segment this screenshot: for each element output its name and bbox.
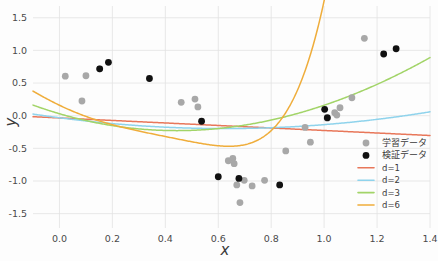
x-tick-label: 1.2 [370, 233, 385, 244]
y-tick-label: -1.0 [8, 175, 27, 186]
chart-canvas: 0.00.20.40.60.81.01.21.41.51.00.50.0-0.5… [0, 0, 438, 261]
data-point [105, 59, 112, 66]
legend-label: d=3 [382, 188, 400, 198]
data-point [192, 96, 199, 103]
data-point [276, 182, 283, 189]
legend-marker [363, 140, 370, 147]
data-point [361, 35, 368, 42]
y-tick-label: 1.5 [12, 12, 27, 23]
legend-label: d=6 [382, 200, 400, 210]
legend-label: d=1 [382, 163, 400, 173]
data-point [231, 160, 238, 167]
y-axis-title: y [2, 116, 20, 127]
x-tick-label: 0.0 [52, 233, 67, 244]
data-point [321, 106, 328, 113]
data-point [79, 98, 86, 105]
data-point [261, 177, 268, 184]
legend-label: 検証データ [382, 149, 427, 160]
data-point [178, 99, 185, 106]
legend-label: 学習データ [382, 137, 427, 148]
data-point [96, 65, 103, 72]
x-tick-label: 0.2 [105, 233, 120, 244]
data-point [249, 182, 256, 189]
x-axis-title: x [220, 241, 230, 259]
data-point [236, 175, 243, 182]
data-point [198, 118, 205, 125]
x-tick-label: 1.4 [422, 233, 437, 244]
data-point [307, 139, 314, 146]
data-point [282, 148, 289, 155]
y-tick-label: -1.5 [8, 208, 27, 219]
figure-background [0, 0, 438, 261]
data-point [194, 103, 201, 110]
data-point [324, 114, 331, 121]
chart-figure: 0.00.20.40.60.81.01.21.41.51.00.50.0-0.5… [0, 0, 438, 261]
x-tick-label: 1.0 [317, 233, 332, 244]
y-tick-label: -0.5 [8, 143, 27, 154]
data-point [83, 72, 90, 79]
data-point [333, 112, 340, 119]
data-point [237, 199, 244, 206]
legend-label: d=2 [382, 175, 400, 185]
y-tick-label: 0.5 [12, 77, 27, 88]
y-tick-label: 1.0 [12, 45, 27, 56]
x-tick-label: 0.8 [264, 233, 279, 244]
data-point [215, 173, 222, 180]
legend-marker [363, 152, 370, 159]
data-point [302, 124, 309, 131]
x-tick-label: 0.4 [158, 233, 173, 244]
data-point [233, 182, 240, 189]
data-point [393, 45, 400, 52]
data-point [349, 94, 356, 101]
data-point [337, 104, 344, 111]
data-point [146, 75, 153, 82]
data-point [62, 73, 69, 80]
data-point [380, 51, 387, 58]
